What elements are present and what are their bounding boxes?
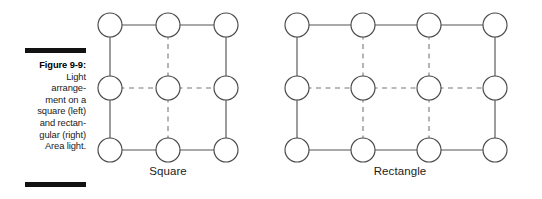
square-light-arrangement-diagram: Square bbox=[88, 0, 248, 199]
figure-illustration: Figure 9-9: Light arrange- ment on a squ… bbox=[0, 0, 542, 199]
square-diagram-label: Square bbox=[88, 165, 248, 177]
light-node bbox=[98, 13, 122, 37]
light-node bbox=[351, 76, 375, 100]
rectangle-light-arrangement-diagram: Rectangle bbox=[272, 0, 528, 199]
light-node bbox=[156, 138, 180, 162]
rectangle-grid-graphic bbox=[272, 0, 528, 165]
light-node bbox=[98, 76, 122, 100]
caption-line: Light bbox=[66, 71, 86, 82]
square-light-nodes bbox=[98, 13, 238, 162]
caption-line: ment on a bbox=[45, 94, 86, 105]
caption-rule-bottom bbox=[25, 182, 86, 187]
light-node bbox=[285, 138, 309, 162]
figure-caption-text: Figure 9-9: Light arrange- ment on a squ… bbox=[10, 59, 86, 152]
figure-caption-body: Light arrange- ment on a square (left) a… bbox=[37, 71, 86, 152]
figure-number-label: Figure 9-9: bbox=[39, 59, 86, 70]
light-node bbox=[285, 76, 309, 100]
light-node bbox=[417, 138, 441, 162]
light-node bbox=[483, 76, 507, 100]
figure-caption-block: Figure 9-9: Light arrange- ment on a squ… bbox=[10, 40, 88, 190]
light-node bbox=[351, 13, 375, 37]
light-node bbox=[214, 76, 238, 100]
light-node bbox=[483, 138, 507, 162]
rectangle-diagram-label: Rectangle bbox=[272, 165, 528, 177]
caption-line: arrange- bbox=[51, 82, 86, 93]
caption-line: and rectan- bbox=[40, 117, 86, 128]
light-node bbox=[214, 138, 238, 162]
light-node bbox=[156, 76, 180, 100]
light-node bbox=[98, 138, 122, 162]
light-node bbox=[214, 13, 238, 37]
caption-line: gular (right) bbox=[39, 129, 86, 140]
light-node bbox=[351, 138, 375, 162]
rectangle-interior-edges bbox=[297, 25, 495, 150]
caption-line: square (left) bbox=[37, 105, 86, 116]
square-grid-graphic bbox=[88, 0, 248, 165]
light-node bbox=[417, 13, 441, 37]
caption-line: Area light. bbox=[45, 140, 86, 151]
light-node bbox=[483, 13, 507, 37]
caption-rule-top bbox=[25, 48, 86, 53]
light-node bbox=[417, 76, 441, 100]
light-node bbox=[285, 13, 309, 37]
light-node bbox=[156, 13, 180, 37]
